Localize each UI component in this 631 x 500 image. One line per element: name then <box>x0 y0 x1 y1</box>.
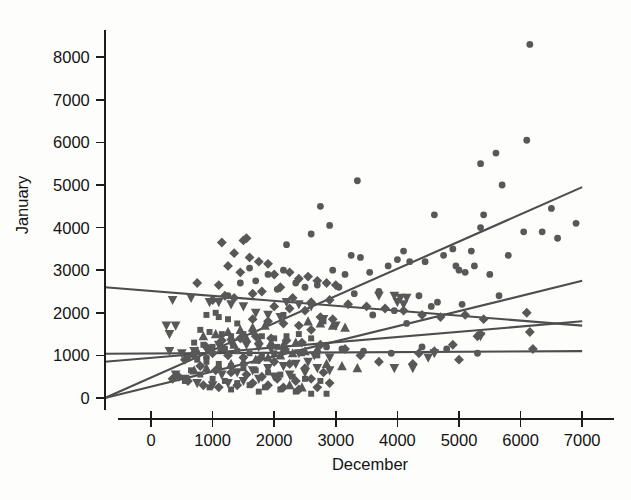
data-point-triangle-down <box>186 294 196 303</box>
x-tick-label: 2000 <box>256 431 293 449</box>
data-point-square <box>247 350 253 356</box>
y-axis-ticks: 010002000300040005000600070008000 <box>53 48 105 407</box>
data-point-circle <box>486 271 493 278</box>
x-axis-title: December <box>332 455 409 473</box>
x-axis-ticks: 01000200030004000500060007000 <box>146 411 600 449</box>
data-point-circle <box>443 346 450 353</box>
data-point-circle <box>477 160 484 167</box>
data-point-triangle-down <box>165 347 175 356</box>
data-point-square <box>293 389 299 395</box>
data-point-circle <box>329 267 336 274</box>
data-point-square <box>308 391 314 397</box>
data-point-circle <box>354 177 361 184</box>
data-point-square <box>197 327 203 333</box>
data-point-circle <box>477 224 484 231</box>
data-point-triangle-down <box>389 364 399 373</box>
data-point-diamond <box>325 378 335 388</box>
y-tick-label: 7000 <box>53 91 90 109</box>
data-point-triangle-down <box>171 322 181 331</box>
data-point-circle <box>505 252 512 259</box>
data-point-triangle-down <box>162 322 172 331</box>
data-point-circle <box>317 203 324 210</box>
x-tick-label: 1000 <box>194 431 231 449</box>
data-point-square <box>207 329 213 335</box>
data-point-square <box>197 372 203 378</box>
data-point-diamond <box>229 248 239 258</box>
data-point-square <box>284 333 290 339</box>
data-point-circle <box>388 350 395 357</box>
data-point-triangle-down <box>423 353 433 362</box>
data-point-circle <box>440 252 447 259</box>
data-point-circle <box>474 350 481 357</box>
data-point-diamond <box>248 289 258 299</box>
data-point-square <box>203 312 209 318</box>
data-point-circle <box>385 263 392 270</box>
data-point-circle <box>573 220 580 227</box>
x-tick-label: 6000 <box>502 431 539 449</box>
data-point-diamond <box>254 257 264 267</box>
data-point-circle <box>351 290 358 297</box>
x-tick-label: 0 <box>146 431 155 449</box>
data-point-circle <box>237 280 244 287</box>
data-point-square <box>256 389 262 395</box>
data-point-circle <box>539 228 546 235</box>
data-point-circle <box>246 265 253 272</box>
y-tick-label: 8000 <box>53 48 90 66</box>
data-point-triangle-down <box>294 300 304 309</box>
data-point-square <box>296 331 302 337</box>
data-point-triangle-up <box>303 316 313 325</box>
data-point-diamond <box>269 270 279 280</box>
data-point-circle <box>468 248 475 255</box>
data-point-triangle-up <box>337 361 347 370</box>
data-point-diamond <box>380 304 390 314</box>
data-point-triangle-down <box>399 300 409 309</box>
y-tick-label: 2000 <box>53 304 90 322</box>
fit-line-medium <box>105 281 582 398</box>
data-point-diamond <box>374 357 384 367</box>
x-tick-label: 3000 <box>317 431 354 449</box>
scatter-chart-figure: 010002000300040005000600070008000 010002… <box>0 0 631 500</box>
y-tick-label: 6000 <box>53 133 90 151</box>
data-point-circle <box>422 258 429 265</box>
data-point-triangle-down <box>374 292 384 301</box>
data-point-circle <box>391 307 398 314</box>
data-point-diamond <box>217 238 227 248</box>
data-point-square <box>234 320 240 326</box>
data-point-circle <box>416 292 423 299</box>
data-point-triangle-down <box>263 311 273 320</box>
data-point-square <box>210 376 216 382</box>
data-point-circle <box>308 231 315 238</box>
data-point-square <box>219 331 225 337</box>
data-point-square <box>324 391 330 397</box>
data-point-square <box>240 365 246 371</box>
data-point-circle <box>434 299 441 306</box>
data-point-circle <box>499 182 506 189</box>
data-point-square <box>228 387 234 393</box>
data-point-square <box>216 314 222 320</box>
data-point-circle <box>403 320 410 327</box>
data-point-square <box>317 378 323 384</box>
data-point-diamond <box>192 278 202 288</box>
data-point-circle <box>459 301 466 308</box>
data-point-circle <box>496 292 503 299</box>
data-point-diamond <box>312 276 322 286</box>
data-point-triangle-up <box>340 323 350 332</box>
data-point-circle <box>252 277 259 284</box>
data-point-square <box>262 384 268 390</box>
data-point-triangle-down <box>408 364 418 373</box>
axes-layer: 010002000300040005000600070008000 010002… <box>53 30 614 449</box>
data-point-triangle-down <box>165 330 175 339</box>
data-point-circle <box>348 252 355 259</box>
data-point-square <box>234 348 240 354</box>
x-tick-label: 4000 <box>379 431 416 449</box>
data-point-square <box>191 340 197 346</box>
plot-canvas: 010002000300040005000600070008000 010002… <box>0 0 631 500</box>
x-tick-label: 7000 <box>564 431 601 449</box>
data-point-circle <box>326 222 333 229</box>
data-point-triangle-up <box>226 359 236 368</box>
data-point-triangle-down <box>300 368 310 377</box>
data-point-circle <box>428 303 435 310</box>
data-point-triangle-down <box>263 364 273 373</box>
data-point-circle <box>342 271 349 278</box>
y-tick-label: 3000 <box>53 261 90 279</box>
